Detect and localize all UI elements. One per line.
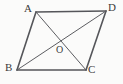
- vertex-label-b: B: [5, 62, 12, 73]
- parallelogram-diagonals: [17, 11, 106, 70]
- vertex-label-a: A: [24, 3, 32, 14]
- parallelogram-svg: [0, 0, 123, 84]
- vertex-label-d: D: [108, 2, 116, 13]
- vertex-label-o: O: [56, 45, 63, 55]
- edge-ba: [17, 12, 36, 70]
- geometry-figure: A D B C O: [0, 0, 123, 84]
- edge-ad: [36, 11, 106, 12]
- diagonal-bd: [17, 11, 106, 70]
- vertex-label-c: C: [88, 64, 95, 75]
- edge-dc: [86, 11, 106, 70]
